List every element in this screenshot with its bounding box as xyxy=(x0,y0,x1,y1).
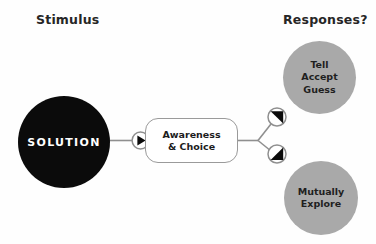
tell-accept-guess-line1: Tell xyxy=(310,59,328,70)
awareness-choice-label: Awareness & Choice xyxy=(162,129,220,153)
awareness-choice-node: Awareness & Choice xyxy=(145,118,238,163)
diagram-canvas: Stimulus Responses? SOLUTION xyxy=(0,0,376,244)
solution-node: SOLUTION xyxy=(18,96,110,188)
tell-accept-guess-node: Tell Accept Guess xyxy=(283,41,356,114)
lower-branch-arrow-marker xyxy=(268,145,286,163)
mutually-explore-line1: Mutually xyxy=(298,186,345,197)
tell-accept-guess-line2: Accept xyxy=(301,71,337,82)
mutually-explore-line2: Explore xyxy=(301,198,341,209)
mutually-explore-label: Mutually Explore xyxy=(298,186,345,211)
wire-split-to-upper xyxy=(258,124,271,141)
solution-node-label: SOLUTION xyxy=(27,136,100,149)
tell-accept-guess-line3: Guess xyxy=(303,84,335,95)
tell-accept-guess-label: Tell Accept Guess xyxy=(301,59,337,97)
mutually-explore-node: Mutually Explore xyxy=(284,161,358,235)
awareness-choice-label-line2: & Choice xyxy=(168,141,215,152)
awareness-choice-label-line1: Awareness xyxy=(162,129,220,140)
upper-branch-arrow-marker xyxy=(268,108,286,126)
